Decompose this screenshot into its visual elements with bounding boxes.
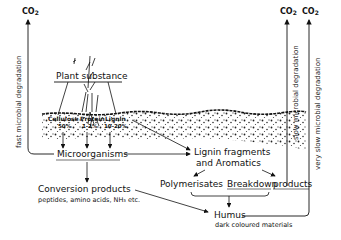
- conversion-examples-label: peptides, amino acids, NH₃ etc.: [38, 197, 140, 204]
- component-cellulose: Cellulose: [48, 116, 79, 122]
- percent-cellulose: 50%: [58, 124, 71, 130]
- conversion-products-label: Conversion products: [38, 185, 131, 194]
- plant-substance-label: Plant substance: [56, 72, 128, 81]
- co2-label-slow: CO2: [280, 8, 297, 16]
- microorganisms-label: Microorganisms: [57, 150, 128, 159]
- co2-label-very-slow: CO2: [302, 8, 319, 16]
- fast-degradation-label: fast microbial degradation: [15, 56, 23, 148]
- breakdown-label: Breakdown: [227, 180, 277, 189]
- humus-description: dark coloured materials: [215, 222, 292, 229]
- humus-label: Humus: [214, 211, 246, 220]
- component-protein: Protein: [80, 116, 105, 122]
- lignin-fragments-label: Lignin fragments: [194, 148, 270, 157]
- co2-label-fast: CO2: [22, 8, 39, 16]
- polymerisates-label: Polymerisates: [160, 180, 223, 189]
- very-slow-degradation-label: very slow microbial degradation: [314, 58, 322, 171]
- slow-degradation-label: slow microbial degradation: [292, 45, 300, 140]
- component-lignin: Lignin: [105, 116, 126, 122]
- percent-protein: 1-2%: [82, 124, 97, 130]
- products-label: products: [273, 180, 312, 189]
- percent-lignin: 10-20%: [104, 124, 127, 130]
- aromatics-label: and Aromatics: [196, 159, 261, 168]
